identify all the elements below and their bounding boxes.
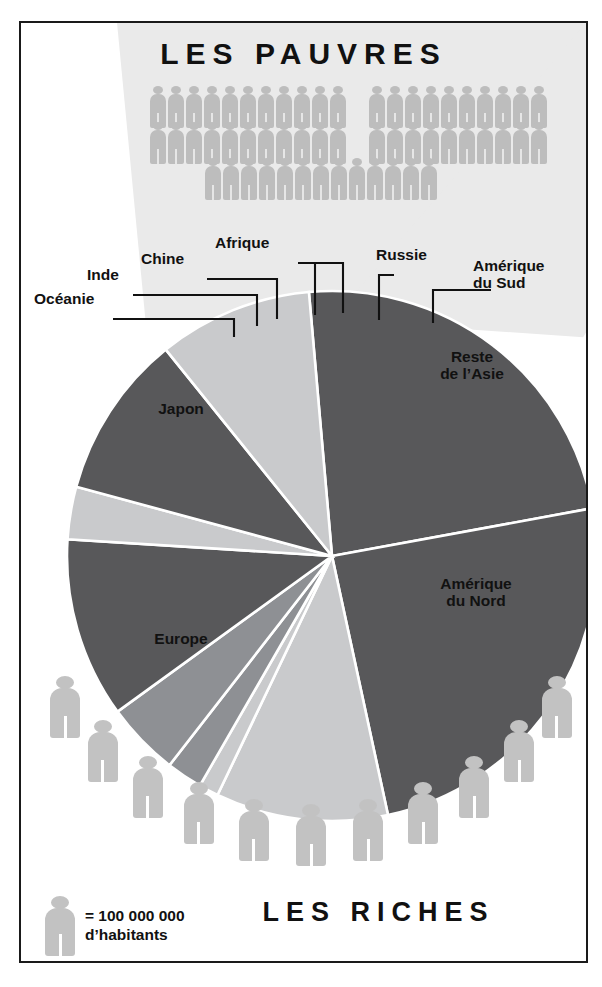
person-icon [504, 720, 534, 782]
callout-label-amerique-du-sud: Amérique du Sud [473, 257, 583, 292]
callout-label-russie: Russie [376, 246, 427, 263]
pie-label-reste-de-l-asie: Reste de l’Asie [417, 348, 527, 383]
person-icon [88, 720, 118, 782]
callout-label-inde: Inde [87, 266, 119, 283]
pie-label-reste-de-l-asie-line1: Reste [451, 348, 493, 365]
pie-label-europe: Europe [121, 630, 241, 647]
callout-label-chine: Chine [141, 250, 184, 267]
infographic-page: LES PAUVRES [0, 0, 602, 987]
pie-label-amerique-du-nord-line2: du Nord [446, 592, 505, 609]
pie-label-europe-text: Europe [154, 630, 207, 647]
person-icon [184, 782, 214, 844]
callout-label-amerique-du-sud-line1: Amérique [473, 257, 545, 274]
pie-label-amerique-du-nord: Amérique du Nord [411, 575, 541, 610]
pie-label-reste-de-l-asie-line2: de l’Asie [440, 365, 504, 382]
person-icon [353, 799, 383, 861]
person-icon [296, 804, 326, 866]
pie-label-japon: Japon [126, 400, 236, 417]
person-icon [408, 782, 438, 844]
callout-label-amerique-du-sud-line2: du Sud [473, 274, 526, 291]
person-icon [50, 676, 80, 738]
pie-label-amerique-du-nord-line1: Amérique [440, 575, 512, 592]
poster-frame: LES PAUVRES [19, 21, 588, 963]
title-les-riches: LES RICHES [21, 897, 586, 928]
callout-label-afrique: Afrique [215, 234, 269, 251]
person-icon [239, 799, 269, 861]
person-icon [542, 676, 572, 738]
legend-unit: d’habitants [85, 926, 185, 945]
person-icon [459, 756, 489, 818]
pie-label-japon-text: Japon [158, 400, 204, 417]
person-icon [133, 756, 163, 818]
callout-label-oceanie: Océanie [34, 290, 94, 307]
caption-fragment [30, 970, 450, 984]
